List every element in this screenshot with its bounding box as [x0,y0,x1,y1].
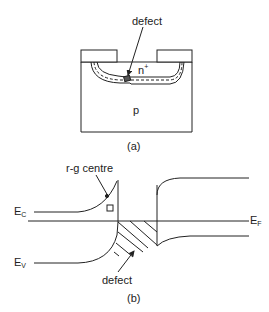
oxide-pad-right [157,50,192,62]
conduction-band-left [34,181,117,212]
device-cross-section [81,27,192,132]
rg-centre-dot [105,194,108,197]
oxide-pad-left [81,50,117,62]
conduction-band-right [157,178,249,195]
rg-centre-pointer [96,175,108,196]
valence-band-right [157,236,249,246]
figure-canvas: defect n+ p (a) r-g [0,0,269,312]
defect-hatching [114,221,157,257]
p-region-label: p [133,104,139,116]
caption-a: (a) [127,140,140,152]
ev-label: EV [14,256,26,269]
rg-centre-marker [107,205,113,211]
ec-label: EC [14,205,26,218]
defect-label-a: defect [132,15,162,27]
valence-band-left [34,222,118,263]
defect-label-b: defect [102,274,132,286]
ef-label: EF [250,214,262,227]
band-diagram [28,175,249,272]
defect-arrow-b [118,251,134,272]
caption-b: (b) [127,292,140,304]
rg-centre-label: r-g centre [66,162,113,174]
defect-marker-a [124,75,131,81]
n-plus-label: n+ [138,63,148,76]
